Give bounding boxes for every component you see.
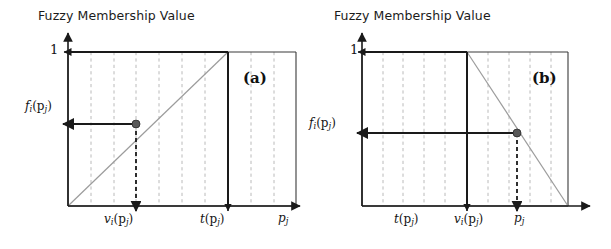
v-close-paren: ): [129, 212, 134, 226]
v-symbol: v: [454, 212, 461, 226]
panel-b-label-f: fi(pj): [309, 116, 336, 131]
panel-a-label-t: t(pj): [200, 212, 225, 227]
t-close-paren: ): [220, 212, 225, 226]
p-symbol: p: [278, 211, 286, 225]
panel-a-tag: (a): [243, 69, 267, 87]
p-symbol: p: [514, 211, 522, 225]
v-open-paren: (p: [114, 212, 126, 226]
f-open-paren: (p: [316, 116, 328, 130]
f-close-paren: ): [47, 99, 52, 113]
operating-point-dot: [513, 129, 521, 137]
f-open-paren: (p: [32, 99, 44, 113]
t-close-paren: ): [414, 212, 419, 226]
p-subscript: j: [286, 216, 289, 226]
panel-a-axis-title: Fuzzy Membership Value: [38, 8, 195, 23]
figure-root: Fuzzy Membership Value 1 fi(pj) vi(pj) t…: [0, 0, 611, 249]
panel-b-ytick-one: 1: [350, 42, 358, 57]
panel-b-label-t: t(pj): [394, 212, 419, 227]
p-subscript: j: [522, 216, 525, 226]
panel-b-axis-title: Fuzzy Membership Value: [334, 8, 491, 23]
chart-panel-a: Fuzzy Membership Value 1 fi(pj) vi(pj) t…: [0, 0, 305, 249]
panel-b-xaxis-name: pj: [514, 211, 524, 226]
panel-b-tag: (b): [532, 69, 557, 87]
panel-a-xaxis-name: pj: [278, 211, 288, 226]
f-close-paren: ): [331, 116, 336, 130]
panel-a-label-v: vi(pj): [104, 212, 133, 227]
panel-a-label-f: fi(pj): [25, 99, 52, 114]
v-close-paren: ): [479, 212, 484, 226]
panel-a-graphic: [0, 0, 305, 249]
membership-ramp-up: [68, 52, 228, 206]
panel-b-label-v: vi(pj): [454, 212, 483, 227]
v-symbol: v: [104, 212, 111, 226]
operating-point-dot: [132, 120, 140, 128]
v-open-paren: (p: [464, 212, 476, 226]
panel-a-ytick-one: 1: [50, 42, 58, 57]
chart-panel-b: Fuzzy Membership Value 1 fi(pj) t(pj) vi…: [306, 0, 611, 249]
t-open-paren: (p: [399, 212, 411, 226]
t-open-paren: (p: [205, 212, 217, 226]
